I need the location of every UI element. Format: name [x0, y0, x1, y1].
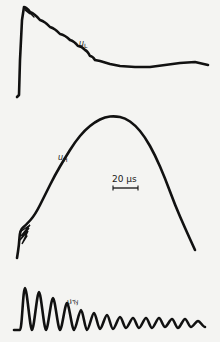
trace-u-h — [17, 116, 195, 258]
scale-bar — [113, 186, 138, 191]
trace-u-l — [17, 7, 208, 97]
scale-bar-label: 20 µs — [112, 175, 137, 184]
label-u-h: uH — [58, 154, 68, 163]
waveform-canvas — [0, 0, 220, 342]
label-u-l: uL — [79, 40, 87, 49]
oscillogram-figure: uL uH uTy 20 µs — [0, 0, 220, 342]
trace-u-ty — [14, 288, 205, 330]
